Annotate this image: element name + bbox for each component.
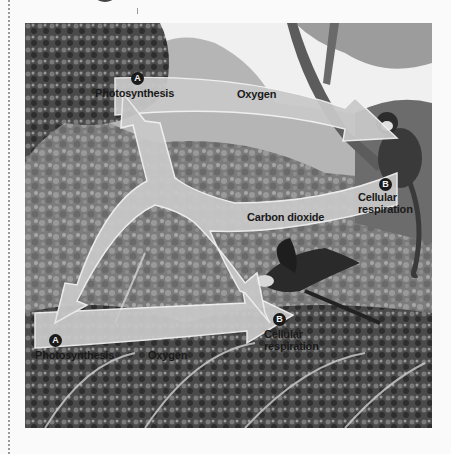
photosynthesis-label-top: Photosynthesis <box>95 87 174 99</box>
cellular-respiration-label-right-1: Cellular <box>358 191 397 203</box>
cropped-tick-mark <box>137 8 138 14</box>
page-margin-rule <box>8 0 10 454</box>
process-badge-a-top: A <box>131 72 144 85</box>
cellular-respiration-label-center-1: Cellular <box>264 328 303 340</box>
oxygen-label-top: Oxygen <box>237 88 276 100</box>
process-badge-a-bottom: A <box>49 334 62 347</box>
cellular-respiration-label-center-2: respiration <box>264 340 319 352</box>
photosynthesis-label-bottom: Photosynthesis <box>35 349 114 361</box>
oxygen-label-bottom: Oxygen <box>148 349 187 361</box>
rainforest-illustration: A Photosynthesis Oxygen B Cellular respi… <box>25 23 432 428</box>
cellular-respiration-label-right-2: respiration <box>358 203 413 215</box>
carbon-dioxide-label: Carbon dioxide <box>247 211 324 223</box>
process-badge-b-center: B <box>273 313 286 326</box>
cropped-element-top <box>96 0 114 2</box>
process-badge-b-right: B <box>379 178 392 191</box>
scene-artwork <box>25 23 432 428</box>
